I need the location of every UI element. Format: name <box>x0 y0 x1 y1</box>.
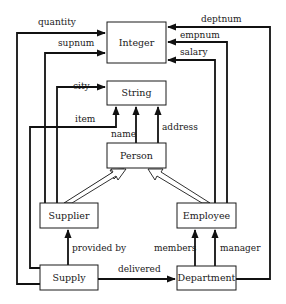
edge-label-manager: manager <box>220 243 261 253</box>
node-department: Department <box>177 266 236 290</box>
edge-label-deptnum: deptnum <box>201 14 242 24</box>
edge-address: address <box>158 107 198 143</box>
node-string: String <box>107 81 166 105</box>
node-employee: Employee <box>177 203 236 228</box>
node-supplier: Supplier <box>40 203 98 228</box>
edge-label-city: city <box>73 81 91 91</box>
edge-label-address: address <box>162 122 198 132</box>
node-label-employee: Employee <box>183 210 231 221</box>
edge-delivered: delivered <box>98 264 175 279</box>
edge-label-members: members <box>154 243 197 253</box>
edge-label-name: name <box>111 129 136 139</box>
edge-name: name <box>111 107 136 143</box>
edge-label-supnum: supnum <box>58 38 95 48</box>
node-label-person: Person <box>120 150 153 161</box>
type-diagram: quantity supnum city item name address d… <box>0 0 286 304</box>
edge-label-salary: salary <box>180 47 209 57</box>
node-label-department: Department <box>178 272 236 283</box>
edge-label-quantity: quantity <box>38 17 77 27</box>
node-label-string: String <box>121 87 151 98</box>
isa-arrow-supplier-person <box>64 169 126 203</box>
edge-manager: manager <box>215 230 261 266</box>
edge-label-item: item <box>75 114 96 124</box>
edge-members: members <box>154 230 197 266</box>
edge-provided-by: provided by <box>68 230 127 265</box>
node-label-supplier: Supplier <box>48 210 89 221</box>
node-person: Person <box>107 143 166 168</box>
node-label-integer: Integer <box>119 37 155 48</box>
edge-label-empnum: empnum <box>180 30 220 40</box>
node-integer: Integer <box>107 22 166 63</box>
edge-label-delivered: delivered <box>118 264 161 274</box>
node-supply: Supply <box>40 265 98 290</box>
isa-arrow-employee-person <box>148 169 210 203</box>
edge-label-provided-by: provided by <box>72 243 127 253</box>
node-label-supply: Supply <box>52 272 86 283</box>
